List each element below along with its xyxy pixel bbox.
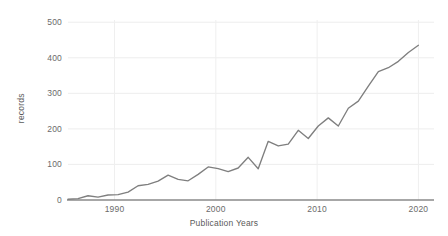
x-tick-label-2010: 2010 bbox=[297, 205, 337, 214]
x-tick-label-2000: 2000 bbox=[196, 205, 236, 214]
y-tick-label-100: 100 bbox=[32, 160, 62, 169]
chart-plot-svg bbox=[0, 0, 448, 236]
y-tick-label-300: 300 bbox=[32, 89, 62, 98]
x-tick-label-2020: 2020 bbox=[398, 205, 438, 214]
x-axis-title: Publication Years bbox=[0, 219, 448, 228]
y-tick-label-400: 400 bbox=[32, 54, 62, 63]
y-tick-label-0: 0 bbox=[32, 196, 62, 205]
y-tick-label-200: 200 bbox=[32, 125, 62, 134]
y-axis-title: records bbox=[17, 78, 26, 138]
y-tick-label-500: 500 bbox=[32, 18, 62, 27]
line-chart: 500 400 300 200 100 0 1990 2000 2010 202… bbox=[0, 0, 448, 236]
x-tick-label-1990: 1990 bbox=[95, 205, 135, 214]
